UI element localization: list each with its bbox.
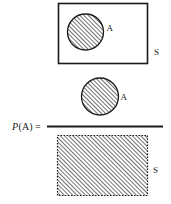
numerator-group: A [82, 78, 128, 115]
formula-p-italic: P [11, 121, 18, 132]
top-venn-group: A S [59, 4, 160, 64]
probability-formula-group: P(A) = [11, 121, 163, 133]
top-event-circle-a [68, 14, 104, 50]
probability-area-diagram: A S P(A) = A S [0, 0, 171, 204]
formula-paren-a-equals: (A) = [19, 121, 41, 133]
denominator-group: S [58, 136, 159, 196]
top-circle-label-a: A [107, 23, 114, 33]
denominator-sample-space-rect [58, 136, 148, 196]
top-rect-label-s: S [154, 47, 159, 57]
numerator-event-circle-a [82, 78, 119, 115]
numerator-circle-label-a: A [121, 92, 128, 102]
diagram-canvas: A S P(A) = A S [0, 0, 171, 204]
denominator-rect-label-s: S [153, 165, 158, 175]
formula-p-of-a: P(A) = [11, 121, 41, 133]
